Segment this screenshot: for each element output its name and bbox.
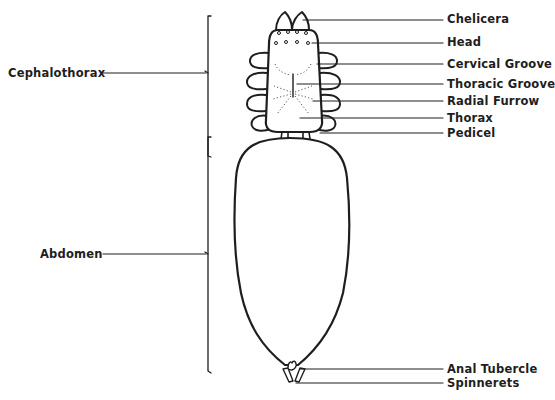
carapace — [266, 30, 322, 132]
label-spinnerets: Spinnerets — [447, 376, 519, 390]
label-pedicel: Pedicel — [447, 126, 495, 140]
label-cephalothorax: Cephalothorax — [8, 66, 105, 80]
abdomen-bracket — [208, 137, 211, 373]
label-anal-tubercle: Anal Tubercle — [447, 362, 537, 376]
abdomen-outline — [234, 138, 349, 365]
label-head: Head — [447, 35, 481, 49]
chelicera-right — [292, 12, 309, 30]
cephalothorax-bracket — [208, 16, 211, 157]
label-cervical-groove: Cervical Groove — [447, 57, 552, 71]
label-thoracic-groove: Thoracic Groove — [447, 77, 555, 91]
label-abdomen: Abdomen — [40, 247, 103, 261]
label-thorax: Thorax — [447, 111, 493, 125]
chelicera-left — [276, 12, 292, 30]
label-radial-furrow: Radial Furrow — [447, 94, 539, 108]
label-chelicera: Chelicera — [447, 12, 509, 26]
